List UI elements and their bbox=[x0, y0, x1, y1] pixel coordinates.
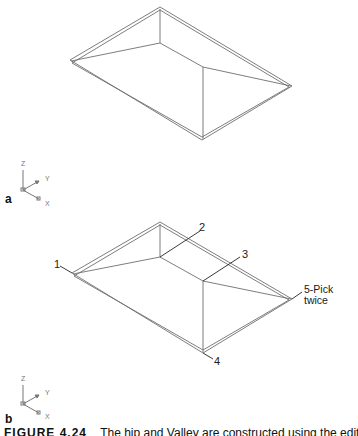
pick-label-1: 1 bbox=[54, 259, 60, 270]
axis-x-label-b: X bbox=[45, 413, 50, 420]
axis-y-label-a: Y bbox=[45, 175, 50, 182]
panel-label-b: b bbox=[5, 412, 12, 426]
ucs-icon-a bbox=[21, 170, 40, 200]
figure-caption-text: The hip and Valley are constructed using… bbox=[100, 426, 358, 436]
roof-drawing-canvas bbox=[0, 0, 358, 436]
axis-x-label-a: X bbox=[45, 200, 50, 207]
pick-label-5: 5-Pick twice bbox=[304, 284, 358, 305]
roof-figure-a bbox=[70, 7, 292, 140]
roof-figure-b bbox=[72, 222, 292, 353]
pick-label-4: 4 bbox=[214, 356, 220, 367]
axis-y-label-b: Y bbox=[45, 389, 50, 396]
panel-label-a: a bbox=[5, 192, 12, 206]
axis-z-label-a: Z bbox=[21, 160, 25, 167]
figure-number: FIGURE 4.24 bbox=[4, 426, 87, 436]
ucs-icon-b bbox=[21, 385, 40, 414]
figure-caption: FIGURE 4.24 The hip and Valley are const… bbox=[4, 426, 358, 436]
axis-z-label-b: Z bbox=[21, 375, 25, 382]
pick-label-2: 2 bbox=[199, 222, 205, 233]
pick-label-3: 3 bbox=[242, 249, 248, 260]
